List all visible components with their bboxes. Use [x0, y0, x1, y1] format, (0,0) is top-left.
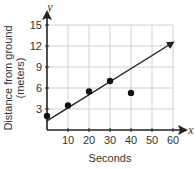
- data-point: [128, 90, 134, 96]
- data-point: [65, 102, 71, 108]
- y-tick-label: 3: [36, 103, 42, 115]
- x-tick-label: 10: [62, 134, 74, 146]
- data-point: [86, 88, 92, 94]
- x-tick-label: 60: [167, 134, 179, 146]
- x-tick-label: 30: [104, 134, 116, 146]
- y-axis-title-line1: Distance from ground: [2, 25, 14, 130]
- data-point: [44, 113, 50, 119]
- x-tick-label: 50: [146, 134, 158, 146]
- y-tick-label: 15: [30, 19, 42, 31]
- y-axis-title-line2: (meters): [14, 58, 26, 99]
- x-tick-label: 20: [83, 134, 95, 146]
- x-axis-variable: x: [187, 123, 194, 137]
- gridlines: [47, 25, 173, 130]
- y-tick-label: 9: [36, 61, 42, 73]
- y-tick-label: 12: [30, 40, 42, 52]
- tick-labels: 1020304050603691215: [30, 19, 179, 146]
- y-axis-variable: y: [46, 0, 53, 14]
- data-point: [107, 78, 113, 84]
- scatter-chart: 1020304050603691215 Seconds y x Distance…: [0, 0, 196, 169]
- x-tick-label: 40: [125, 134, 137, 146]
- y-tick-label: 6: [36, 82, 42, 94]
- x-axis-title: Seconds: [89, 152, 132, 164]
